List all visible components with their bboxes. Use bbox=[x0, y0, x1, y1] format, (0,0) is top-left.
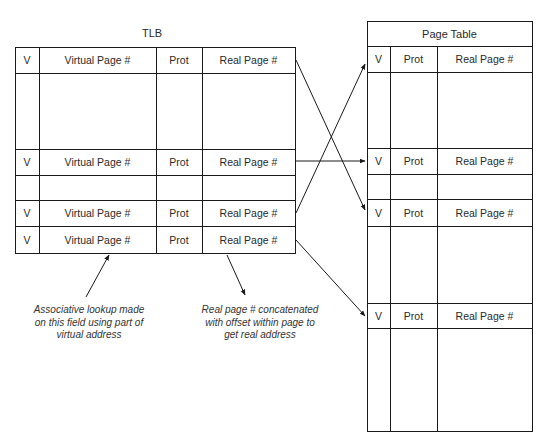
diagram-lines bbox=[0, 0, 545, 443]
tlb-grid bbox=[15, 47, 296, 254]
mapping-arrows bbox=[86, 60, 365, 316]
arrow-tlb-entry3-to-pt-entry3 bbox=[296, 240, 365, 316]
arrow-tlb-header-to-pt-entry2 bbox=[296, 60, 365, 210]
arrow-lookup-annotation bbox=[86, 255, 109, 297]
arrow-concat-annotation bbox=[227, 255, 245, 295]
page-table-grid bbox=[367, 22, 533, 433]
arrow-tlb-entry2-to-pt-header bbox=[296, 64, 365, 213]
